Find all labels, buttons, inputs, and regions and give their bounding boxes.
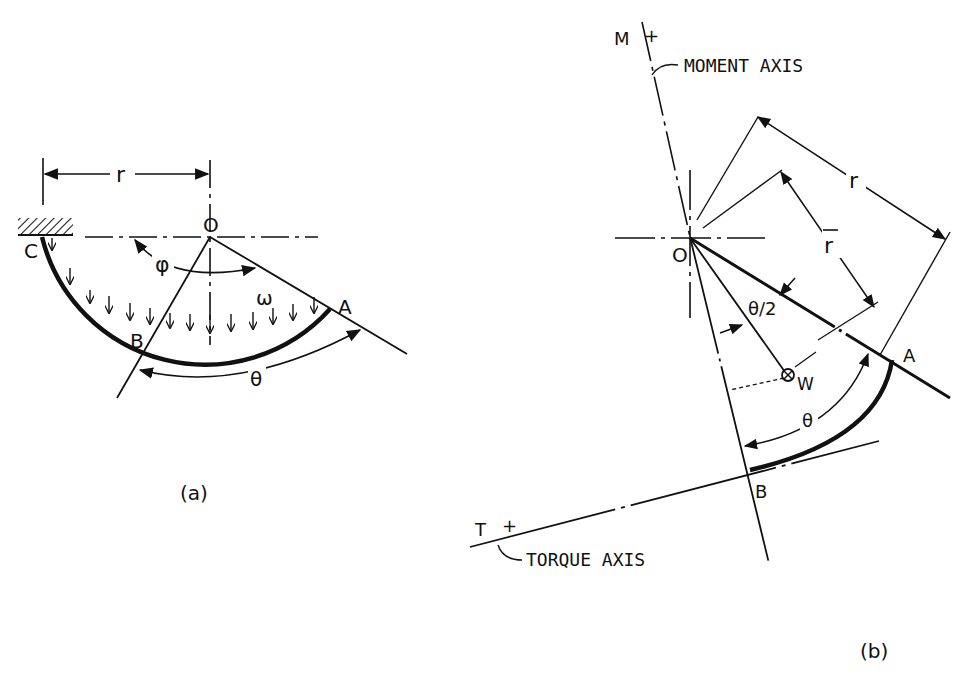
fixed-support-hatch <box>18 218 73 234</box>
figure-b: M + MOMENT AXIS r r θ/2 W <box>470 22 950 663</box>
moment-axis-lower <box>690 237 773 580</box>
label-W: W <box>797 374 814 394</box>
label-moment-axis: MOMENT AXIS <box>684 55 803 76</box>
label-r-b: r <box>849 168 859 193</box>
label-O-b: O <box>672 243 688 267</box>
label-T-plus: + <box>502 515 517 536</box>
label-C: C <box>24 239 38 263</box>
torque-axis-line <box>470 441 879 547</box>
radial-line-OA <box>690 238 950 398</box>
moment-axis-leader <box>652 64 678 75</box>
beam-arc-b <box>750 360 892 470</box>
caption-b: (b) <box>860 639 888 663</box>
caption-a: (a) <box>180 481 208 505</box>
label-B-b: B <box>755 481 767 502</box>
label-phi: φ <box>155 252 170 277</box>
torque-axis-leader <box>498 545 522 560</box>
label-T: T <box>474 519 487 540</box>
theta-half-arrow-top <box>780 278 795 295</box>
r-extension-line <box>697 117 758 220</box>
rbar-extension-line <box>703 170 782 228</box>
label-B: B <box>130 329 144 353</box>
label-theta: θ <box>250 367 262 391</box>
theta-angle-arc-b <box>745 354 868 446</box>
label-torque-axis: TORQUE AXIS <box>526 549 645 570</box>
label-r-bar: r <box>824 233 834 258</box>
label-M: M <box>614 28 630 49</box>
beam-arc <box>42 237 330 365</box>
theta-half-arrow-bottom <box>720 325 742 333</box>
radial-line-A <box>210 237 407 354</box>
curved-beam-diagram: r <box>0 0 970 678</box>
w-perpendicular-dashed <box>730 378 784 390</box>
label-theta-half: θ/2 <box>748 298 777 319</box>
label-A: A <box>338 295 352 319</box>
label-theta-b: θ <box>802 410 813 431</box>
label-r: r <box>116 162 126 187</box>
moment-axis-line <box>642 22 690 237</box>
w-extension <box>795 352 816 367</box>
label-M-plus: + <box>644 25 659 46</box>
r-extension-line-far <box>880 232 950 355</box>
label-A-b: A <box>903 345 916 366</box>
label-O: O <box>203 213 219 237</box>
figure-a: r <box>18 158 407 505</box>
label-omega: ω <box>256 286 273 310</box>
